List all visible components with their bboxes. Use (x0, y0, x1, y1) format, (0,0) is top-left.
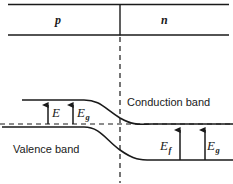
energy-band-diagram-figure: p n Conduction band Valence band E Eg Ef… (0, 0, 233, 184)
conduction-band-label: Conduction band (127, 97, 210, 108)
energy-label-Eg-left: Eg (77, 106, 89, 119)
region-label-n: n (161, 14, 168, 26)
energy-label-Ef-right: Ef (160, 139, 171, 152)
energy-label-E: E (52, 106, 60, 119)
energy-label-E-symbol: E (52, 105, 60, 120)
energy-label-Ef-right-symbol: E (160, 138, 168, 153)
material-slab (8, 5, 229, 36)
region-label-p: p (55, 14, 61, 26)
energy-label-Eg-left-subscript: g (85, 112, 89, 122)
energy-label-Eg-right-symbol: E (207, 138, 215, 153)
energy-label-Eg-right: Eg (207, 139, 219, 152)
valence-band-label: Valence band (13, 144, 79, 155)
energy-label-Ef-right-subscript: f (168, 145, 171, 155)
diagram-canvas (0, 0, 233, 184)
energy-label-Eg-left-symbol: E (77, 105, 85, 120)
energy-label-Eg-right-subscript: g (215, 145, 219, 155)
